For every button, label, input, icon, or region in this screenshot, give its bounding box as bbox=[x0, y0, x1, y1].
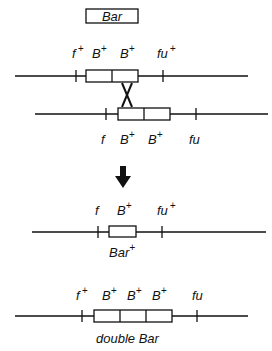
label-fu-plus: fu+ bbox=[157, 200, 176, 218]
bar-duplication-diagram: Bar f+ B+ B+ fu+ f B+ B+ fu f B+ fu+ bbox=[0, 0, 272, 351]
caption-double-bar: double Bar bbox=[96, 331, 160, 346]
label-B-plus-1: B+ bbox=[92, 43, 107, 61]
caption-bar-plus: Bar+ bbox=[109, 242, 135, 260]
label-B-plus-1: B+ bbox=[102, 285, 117, 303]
down-arrow-icon bbox=[115, 166, 131, 188]
chromosome-row-3: f B+ fu+ Bar+ bbox=[32, 200, 266, 260]
title-bar-label: Bar bbox=[102, 9, 123, 24]
label-B-plus: B+ bbox=[117, 200, 132, 218]
label-f-plus: f+ bbox=[76, 285, 88, 303]
title-bar-box: Bar bbox=[86, 9, 138, 24]
label-B-plus-1: B+ bbox=[120, 129, 135, 147]
label-f: f bbox=[95, 203, 100, 218]
label-fu: fu bbox=[192, 288, 203, 303]
label-fu: fu bbox=[189, 132, 200, 147]
label-fu-plus: fu+ bbox=[157, 43, 176, 61]
label-B-plus-2: B+ bbox=[148, 129, 163, 147]
double-bar-region-box bbox=[94, 310, 172, 322]
chromosome-row-1: f+ B+ B+ fu+ bbox=[15, 43, 248, 82]
label-f: f bbox=[101, 132, 106, 147]
chromosome-row-4: f+ B+ B+ B+ fu double Bar bbox=[15, 285, 248, 346]
label-B-plus-2: B+ bbox=[120, 43, 135, 61]
label-f-plus: f+ bbox=[72, 43, 84, 61]
crossover-x-icon bbox=[122, 83, 132, 107]
bar-region-box bbox=[109, 226, 136, 237]
label-B-plus-3: B+ bbox=[152, 285, 167, 303]
chromosome-row-2: f B+ B+ fu bbox=[35, 108, 268, 147]
label-B-plus-2: B+ bbox=[127, 285, 142, 303]
